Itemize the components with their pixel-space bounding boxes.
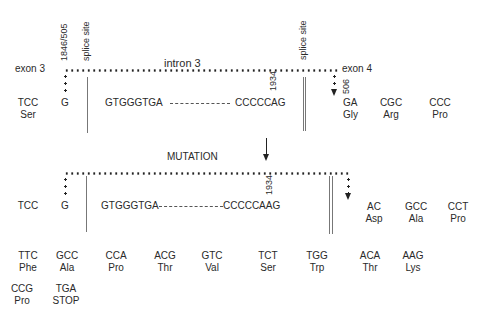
mutant-exon4-junction-dots [347,176,350,194]
readthrough-codon-3: CCAPro [96,250,136,274]
mutant-intron-end-sequence: CCCCCAAG [223,200,280,212]
codon-exon3-partial: G [45,97,85,109]
exon4-arrow-icon [331,89,337,96]
mutant-dotted-line [64,172,349,175]
readthrough-codon-9: AAGLys [393,250,433,274]
mutant-intron-start-sequence: GTGGGTGA [101,200,159,212]
readthrough-codon-10: CCGPro [2,283,42,307]
readthrough-codon-5: GTCVal [192,250,232,274]
splice-site-right-label: splice site [298,20,308,60]
exon4-junction-dots [333,73,336,89]
position-506-label: 506 [341,79,351,94]
mutant-codon-exon4-1: ACAsp [354,201,394,225]
mutant-codon-exon4-2: GCCAla [396,201,436,225]
intron-end-sequence: CCCCCAG [235,97,286,109]
intron-dotted-line [64,69,339,72]
position-1934-label: 1934 [268,71,278,91]
mutant-codon-exon4-3: CCTPro [438,201,478,225]
splice-site-right-line-2 [305,77,306,131]
mutation-arrow-icon [263,154,269,161]
codon-exon4-1: GAGly [343,97,373,121]
intron-start-sequence: GTGGGTGA [105,97,163,109]
splice-site-right-line [303,77,304,131]
splice-site-left-line [87,77,88,133]
mutation-label: MUTATION [167,151,218,163]
mutant-splice-site-left-line [86,176,87,232]
exon3-label: exon 3 [15,63,45,75]
readthrough-codon-7: TGGTrp [297,250,337,274]
mutant-codon-exon3: TCC [8,200,48,212]
position-1846-505-label: 1846/505 [59,23,69,61]
readthrough-stop-codon: TGASTOP [46,283,86,307]
readthrough-codon-4: ACGThr [145,250,185,274]
readthrough-codon-1: TTCPhe [8,250,48,274]
mutant-intron-gap-dashes [159,206,223,207]
mutant-codon-exon3-partial: G [45,200,85,212]
exon4-label: exon 4 [342,63,372,75]
splice-site-left-label: splice site [81,21,91,61]
mutant-splice-site-right-line-2 [332,176,333,234]
codon-exon4-2: CGCArg [371,97,411,121]
readthrough-codon-8: ACAThr [350,250,390,274]
readthrough-codon-6: TCTSer [248,250,288,274]
mutant-exon3-junction-dots [64,176,67,198]
readthrough-codon-2: GCCAla [47,250,87,274]
mutant-position-1934-label: 1934 [264,175,274,195]
mutant-exon4-arrow-icon [345,193,351,200]
codon-exon3: TCCSer [8,97,48,121]
intron-gap-dashes [170,103,230,104]
mutant-splice-site-right-line [329,176,330,234]
exon3-junction-dots [64,73,67,95]
intron3-label: intron 3 [164,57,201,69]
codon-exon4-3: CCCPro [420,97,460,121]
